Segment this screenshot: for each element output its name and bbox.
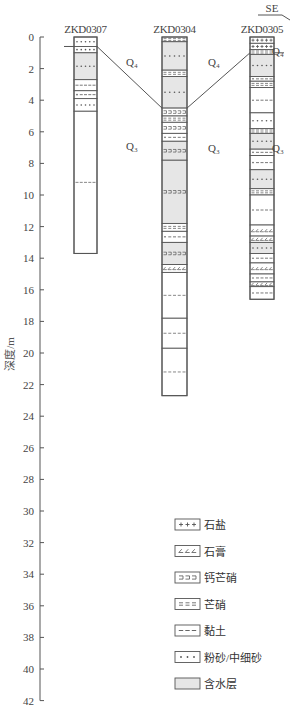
axis-tick-label: 4 (29, 94, 35, 106)
layer-gypsum (250, 282, 274, 287)
legend-label: 黏土 (204, 624, 226, 637)
legend-label: 含水层 (204, 677, 237, 690)
layer-sand (250, 170, 274, 189)
layer-glauberite (162, 122, 187, 133)
strata-label: Q₄ (272, 45, 284, 57)
layer-glauberite (162, 160, 187, 223)
legend-label: 钙芒硝 (204, 571, 237, 584)
layer-gypsum (162, 265, 187, 273)
layer-clay_sparse (162, 318, 187, 348)
direction-arrow-icon (258, 15, 290, 20)
axis-tick-label: 24 (23, 410, 35, 422)
axis-tick-label: 10 (23, 189, 35, 201)
legend-swatch-icon (175, 546, 200, 557)
legend-item-sand: 粉砂/中细砂 (175, 652, 262, 664)
layer-sand (250, 242, 274, 253)
borehole-name: ZKD0304 (153, 23, 196, 35)
layer-clay_sparse (74, 111, 97, 253)
layer-mirabilite (250, 50, 274, 55)
layer-clay_sand (250, 287, 274, 300)
layer-sand (74, 99, 97, 112)
direction-indicator: SE (258, 2, 290, 20)
axis-tick-label: 14 (23, 252, 35, 264)
legend-swatch-icon (175, 599, 200, 610)
stratigraphic-section-diagram: 024681012141618202224262830323436384042深… (0, 0, 301, 714)
axis-tick-label: 2 (29, 63, 35, 75)
axis-tick-label: 6 (29, 126, 35, 138)
layer-mirabilite (250, 81, 274, 87)
legend-swatch-icon (175, 678, 200, 689)
strata-label: Q₃ (208, 142, 220, 154)
legend-label: 粉砂/中细砂 (204, 652, 262, 664)
layer-clay_sand (250, 77, 274, 82)
axis-tick-label: 12 (23, 221, 34, 233)
layer-clay_sand (250, 274, 274, 282)
layer-sand (74, 46, 97, 52)
axis-tick-label: 20 (23, 347, 35, 359)
axis-tick-label: 16 (23, 284, 35, 296)
strata-label: Q₄ (208, 56, 220, 68)
layer-sand (74, 53, 97, 80)
legend-item-clay: 黏土 (175, 624, 226, 637)
direction-label: SE (266, 2, 279, 14)
axis-title: 深度/m (3, 337, 16, 371)
layer-gypsum (250, 236, 274, 242)
layer-clay_sand (250, 156, 274, 170)
layer-clay_sand (250, 149, 274, 155)
layer-salt (250, 43, 274, 49)
layer-glauberite (162, 141, 187, 160)
legend: 石盐石膏钙芒硝芒硝黏土粉砂/中细砂含水层 (175, 519, 262, 690)
axis-tick-label: 30 (23, 505, 35, 517)
axis-tick-label: 0 (29, 31, 35, 43)
borehole-zkd0307: ZKD0307 (64, 23, 107, 253)
layer-clay_sand (162, 231, 187, 242)
borehole-name: ZKD0307 (64, 23, 107, 35)
strata-label: Q₃ (272, 142, 284, 154)
legend-item-salt: 石盐 (175, 519, 226, 531)
legend-label: 芒硝 (204, 599, 226, 611)
depth-axis: 024681012141618202224262830323436384042深… (3, 31, 44, 707)
layer-mirabilite (162, 223, 187, 231)
borehole-name: ZKD0305 (241, 23, 284, 35)
layer-mirabilite (162, 70, 187, 76)
layer-clay_sand (74, 91, 97, 99)
layer-mirabilite (250, 129, 274, 134)
strata-label: Q₃ (126, 140, 138, 152)
legend-item-gypsum: 石膏 (175, 545, 226, 558)
layer-glauberite (162, 242, 187, 264)
legend-label: 石膏 (204, 545, 226, 558)
borehole-zkd0305: ZKD0305 (241, 23, 284, 299)
legend-label: 石盐 (204, 519, 226, 531)
axis-tick-label: 18 (23, 315, 35, 327)
axis-tick-label: 8 (29, 157, 35, 169)
layer-mirabilite (162, 37, 187, 42)
layer-sand (162, 42, 187, 70)
layer-sand (74, 37, 97, 46)
layer-salt (250, 37, 274, 43)
axis-tick-label: 40 (23, 663, 35, 675)
layer-clay_sand (250, 253, 274, 262)
layer-clay_sand (250, 88, 274, 113)
layer-mirabilite (250, 189, 274, 195)
layer-mirabilite (162, 116, 187, 122)
axis-tick-label: 36 (23, 600, 35, 612)
axis-tick-label: 28 (23, 473, 35, 485)
layer-clay_sparse (162, 272, 187, 318)
axis-tick-label: 22 (23, 379, 34, 391)
layer-sand (162, 77, 187, 109)
layer-glauberite (162, 108, 187, 116)
legend-item-aquifer: 含水层 (175, 677, 237, 690)
axis-tick-label: 32 (23, 537, 34, 549)
borehole-columns: ZKD0307ZKD0304ZKD0305 (64, 23, 284, 396)
strata-label: Q₄ (126, 56, 138, 68)
layer-sand (250, 54, 274, 76)
layer-clay_sand (162, 133, 187, 141)
axis-tick-label: 42 (23, 695, 34, 707)
layer-gypsum (250, 225, 274, 236)
borehole-zkd0304: ZKD0304 (153, 23, 196, 396)
layer-clay (74, 80, 97, 91)
legend-item-glauberite: 钙芒硝 (175, 571, 237, 584)
layer-sand (250, 133, 274, 149)
layer-clay_sparse (162, 348, 187, 395)
axis-tick-label: 34 (23, 568, 35, 580)
